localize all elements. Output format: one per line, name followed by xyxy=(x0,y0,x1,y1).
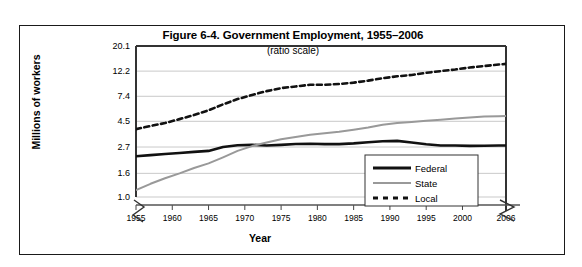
x-tick-label: 1965 xyxy=(199,213,218,223)
x-tick-label: 1990 xyxy=(380,213,399,223)
legend-label-local: Local xyxy=(415,193,438,204)
figure-container: Figure 6-4. Government Employment, 1955–… xyxy=(19,25,565,255)
x-tick-label: 1995 xyxy=(417,213,436,223)
legend-label-state: State xyxy=(415,178,437,189)
x-tick-labels: 1955196019651970197519801985199019952000… xyxy=(127,213,516,223)
x-tick-label: 1960 xyxy=(163,213,182,223)
x-tick-label: 2006 xyxy=(497,213,516,223)
y-tick-label: 20.1 xyxy=(112,41,130,51)
y-tick-label: 12.2 xyxy=(112,66,130,76)
x-tick-label: 2000 xyxy=(453,213,472,223)
legend-label-federal: Federal xyxy=(415,163,447,174)
plot-area: 20.112.27.44.52.71.61.0 1955196019651970… xyxy=(20,26,566,256)
y-tick-label: 2.7 xyxy=(117,142,130,152)
y-tick-label: 1.6 xyxy=(117,168,130,178)
y-tick-labels: 20.112.27.44.52.71.61.0 xyxy=(112,41,130,202)
chart-svg: 20.112.27.44.52.71.61.0 1955196019651970… xyxy=(20,26,566,256)
x-tick-label: 1985 xyxy=(344,213,363,223)
y-tick-label: 7.4 xyxy=(117,91,130,101)
chart-legend: FederalStateLocal xyxy=(365,155,478,206)
x-tick-label: 1970 xyxy=(235,213,254,223)
x-tick-label: 1975 xyxy=(272,213,291,223)
y-tick-label: 1.0 xyxy=(117,192,130,202)
y-tick-label: 4.5 xyxy=(117,116,130,126)
series-line-federal xyxy=(136,141,506,156)
x-tick-label: 1980 xyxy=(308,213,327,223)
